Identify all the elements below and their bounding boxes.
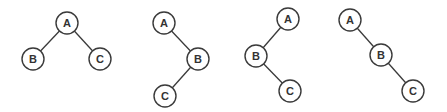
node-label: C xyxy=(286,85,294,97)
node-c: C xyxy=(154,85,176,107)
node-a: A xyxy=(153,12,175,34)
node-b: B xyxy=(245,45,267,67)
tree-4: ABC xyxy=(339,9,424,102)
node-label: C xyxy=(409,85,417,97)
node-c: C xyxy=(89,48,111,70)
nodes-layer: ABCABCABCABC xyxy=(22,8,424,107)
node-a: A xyxy=(339,9,361,31)
node-label: C xyxy=(161,90,169,102)
node-c: C xyxy=(402,80,424,102)
tree-1: ABC xyxy=(22,12,111,70)
tree-2: ABC xyxy=(153,12,209,107)
node-label: C xyxy=(96,53,104,65)
node-b: B xyxy=(370,44,392,66)
node-label: A xyxy=(63,17,71,29)
node-a: A xyxy=(277,8,299,30)
node-a: A xyxy=(56,12,78,34)
node-label: B xyxy=(194,53,202,65)
node-label: B xyxy=(252,50,260,62)
node-label: A xyxy=(346,14,354,26)
node-c: C xyxy=(279,80,301,102)
node-b: B xyxy=(187,48,209,70)
node-b: B xyxy=(22,48,44,70)
node-label: A xyxy=(160,17,168,29)
tree-3: ABC xyxy=(245,8,301,102)
binary-trees-diagram: ABCABCABCABC xyxy=(0,0,447,112)
node-label: A xyxy=(284,13,292,25)
node-label: B xyxy=(377,49,385,61)
node-label: B xyxy=(29,53,37,65)
